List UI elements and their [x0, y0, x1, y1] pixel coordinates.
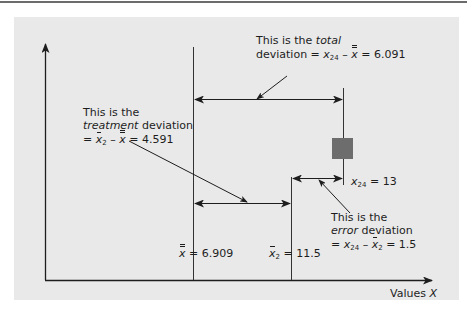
total-pointer	[257, 76, 287, 99]
observation-marker	[332, 138, 353, 159]
error-pointer	[319, 180, 350, 213]
total-deviation-label: This is the total deviation = x24 – x = …	[256, 35, 406, 61]
observation-value-label: x24 = 13	[351, 176, 397, 188]
error-deviation-label: This is the error deviation = x24 – x2 =…	[331, 212, 416, 251]
treatment-deviation-label: This is the treatment deviation = x2 – x…	[83, 107, 193, 146]
grand-mean-label: x = 6.909	[179, 248, 233, 260]
treatment-pointer	[129, 141, 247, 202]
x-axis-label: Values X	[390, 288, 437, 300]
group-mean-label: x2 = 11.5	[269, 248, 321, 260]
